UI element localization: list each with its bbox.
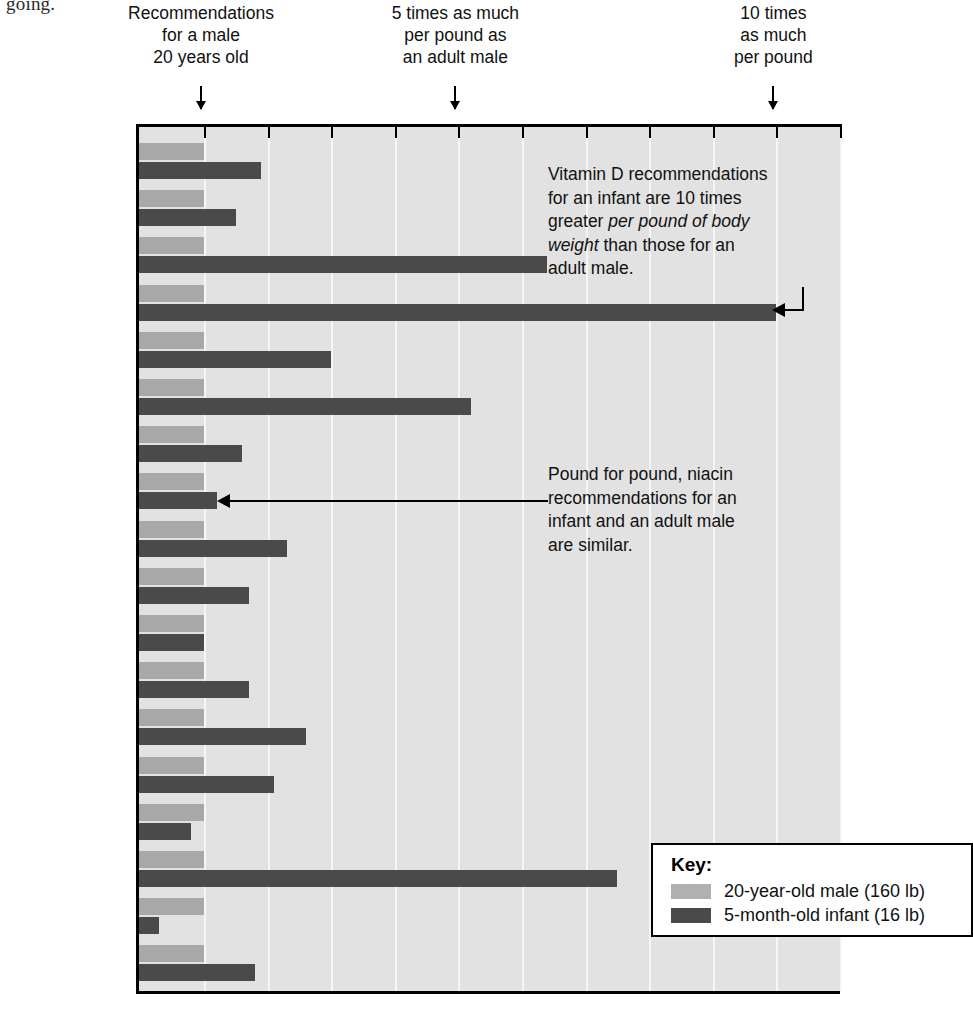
annotation-line: weight than those for an — [548, 234, 768, 258]
bar-adult — [139, 426, 204, 443]
top-note-line: 20 years old — [71, 46, 331, 68]
x-axis-tick — [522, 124, 524, 138]
legend-item-adult: 20-year-old male (160 lb) — [671, 881, 971, 902]
bar-infant — [139, 917, 159, 934]
annotation-line: greater per pound of body — [548, 210, 768, 234]
bar-adult — [139, 237, 204, 254]
legend-item-infant: 5-month-old infant (16 lb) — [671, 905, 971, 926]
bar-infant — [139, 587, 249, 604]
bar-infant — [139, 209, 236, 226]
legend-label-infant: 5-month-old infant (16 lb) — [724, 905, 925, 926]
x-axis-tick — [649, 124, 651, 138]
bar-adult — [139, 190, 204, 207]
bar-adult — [139, 332, 204, 349]
top-note-line: per pound as — [325, 24, 585, 46]
top-note-ten-times: 10 times as much per pound — [643, 2, 903, 68]
x-axis-tick — [713, 124, 715, 138]
top-note-line: 10 times — [643, 2, 903, 24]
bar-adult — [139, 473, 204, 490]
x-axis-tick — [268, 124, 270, 138]
bar-adult — [139, 851, 204, 868]
bar-infant — [139, 540, 287, 557]
top-note-line: Recommendations — [71, 2, 331, 24]
x-axis-tick — [776, 124, 778, 138]
top-note-recommendations: Recommendations for a male 20 years old — [71, 2, 331, 68]
chart-plot-area: EnergyProteinVitamin AVitamin DVitamin E… — [136, 124, 840, 994]
bar-infant — [139, 870, 617, 887]
legend-title: Key: — [671, 854, 971, 876]
bar-infant — [139, 256, 547, 273]
x-axis-tick — [458, 124, 460, 138]
x-axis-tick — [586, 124, 588, 138]
bar-infant — [139, 776, 274, 793]
bar-infant — [139, 304, 776, 321]
down-arrow-icon-1x — [200, 86, 202, 109]
annotation-line: are similar. — [548, 534, 737, 558]
bar-infant — [139, 728, 306, 745]
annotation-vitamin-d: Vitamin D recommendations for an infant … — [548, 163, 768, 281]
annotation-line: adult male. — [548, 257, 768, 281]
bar-adult — [139, 615, 204, 632]
x-axis-tick — [395, 124, 397, 138]
bar-infant — [139, 681, 249, 698]
annotation-line: Vitamin D recommendations — [548, 163, 768, 187]
top-note-line: 5 times as much — [325, 2, 585, 24]
annotation-niacin: Pound for pound, niacin recommendations … — [548, 463, 737, 557]
bar-infant — [139, 398, 471, 415]
bar-adult — [139, 143, 204, 160]
top-note-line: an adult male — [325, 46, 585, 68]
bar-adult — [139, 898, 204, 915]
bar-infant — [139, 351, 331, 368]
legend-swatch-adult — [671, 884, 711, 899]
bar-adult — [139, 945, 204, 962]
annotation-line: recommendations for an — [548, 487, 737, 511]
bar-adult — [139, 568, 204, 585]
top-note-five-times: 5 times as much per pound as an adult ma… — [325, 2, 585, 68]
bar-infant — [139, 492, 217, 509]
vitamin-d-pointer-arrow-icon — [774, 287, 804, 317]
annotation-line: for an infant are 10 times — [548, 187, 768, 211]
bar-adult — [139, 709, 204, 726]
annotation-line: Pound for pound, niacin — [548, 463, 737, 487]
x-axis-tick — [331, 124, 333, 138]
bar-adult — [139, 379, 204, 396]
bar-infant — [139, 823, 191, 840]
legend-key-box: Key: 20-year-old male (160 lb) 5-month-o… — [651, 843, 973, 937]
bar-infant — [139, 445, 242, 462]
legend-label-adult: 20-year-old male (160 lb) — [724, 881, 925, 902]
down-arrow-icon-5x — [454, 86, 456, 109]
bar-adult — [139, 285, 204, 302]
x-axis-tick — [840, 124, 842, 138]
bar-adult — [139, 804, 204, 821]
niacin-pointer-arrow-icon — [230, 500, 548, 502]
bar-infant — [139, 964, 255, 981]
legend-swatch-infant — [671, 908, 711, 923]
bar-infant — [139, 634, 204, 651]
top-note-line: as much — [643, 24, 903, 46]
top-note-line: for a male — [71, 24, 331, 46]
cut-off-running-text: going. — [6, 0, 55, 15]
bar-adult — [139, 662, 204, 679]
x-axis-tick — [204, 124, 206, 138]
bar-infant — [139, 162, 261, 179]
down-arrow-icon-10x — [772, 86, 774, 109]
annotation-line: infant and an adult male — [548, 510, 737, 534]
top-note-line: per pound — [643, 46, 903, 68]
bar-adult — [139, 757, 204, 774]
bar-adult — [139, 521, 204, 538]
